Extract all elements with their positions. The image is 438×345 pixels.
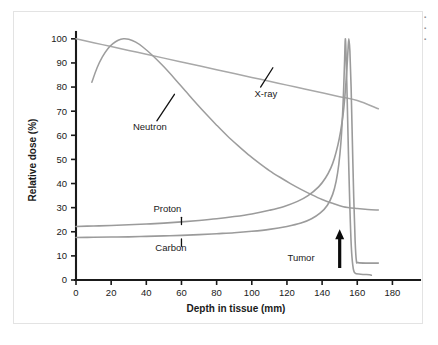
x-tick-label: 20 (106, 287, 117, 298)
tumor-arrow-icon (335, 229, 344, 268)
y-tick-label: 40 (56, 178, 67, 189)
y-tick-label: 70 (56, 106, 67, 117)
chart-series: X-rayNeutronProtonCarbon (76, 39, 378, 275)
x-tick-label: 80 (211, 287, 222, 298)
x-tick-label: 120 (279, 287, 295, 298)
y-tick-label: 60 (56, 130, 67, 141)
y-tick-label: 90 (56, 57, 67, 68)
y-tick-label: 20 (56, 226, 67, 237)
chart-axes: 0102030405060708090100020406080100120140… (51, 32, 420, 298)
leader-line-x-ray (261, 68, 273, 87)
edge-text-line: ▪ (424, 34, 438, 45)
page-edge-text-fragment: ▪▪▪ (424, 12, 438, 46)
series-label-proton: Proton (153, 203, 181, 214)
x-tick-label: 60 (176, 287, 187, 298)
screenshot-root: 0102030405060708090100020406080100120140… (0, 0, 438, 345)
x-tick-label: 40 (141, 287, 152, 298)
x-tick-label: 180 (384, 287, 400, 298)
x-tick-label: 100 (244, 287, 260, 298)
series-label-neutron: Neutron (133, 121, 167, 132)
x-tick-label: 0 (73, 287, 78, 298)
y-tick-label: 10 (56, 250, 67, 261)
y-tick-label: 50 (56, 154, 67, 165)
leader-line-neutron (157, 94, 175, 121)
series-label-carbon: Carbon (155, 242, 186, 253)
series-label-x-ray: X-ray (255, 88, 278, 99)
chart-annotations: Tumor (287, 229, 344, 268)
series-curve-carbon (76, 39, 371, 275)
x-tick-label: 140 (314, 287, 330, 298)
x-tick-label: 160 (349, 287, 365, 298)
series-curve-x-ray (76, 39, 378, 109)
tumor-annotation-label: Tumor (287, 252, 314, 263)
dose-depth-chart: 0102030405060708090100020406080100120140… (14, 12, 422, 323)
y-axis-title: Relative dose (%) (27, 119, 38, 202)
edge-text-line: ▪ (424, 12, 438, 23)
y-tick-label: 80 (56, 81, 67, 92)
x-axis-title: Depth in tissue (mm) (187, 303, 286, 314)
y-tick-label: 0 (62, 274, 67, 285)
y-tick-label: 30 (56, 202, 67, 213)
y-tick-label: 100 (51, 33, 67, 44)
figure-frame: 0102030405060708090100020406080100120140… (13, 11, 423, 324)
edge-text-line: ▪ (424, 23, 438, 34)
